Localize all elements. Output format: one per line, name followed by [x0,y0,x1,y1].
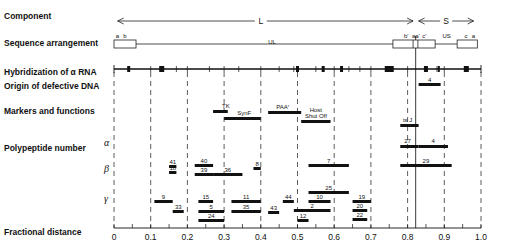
axis-tick-0.9: 0.9 [438,232,450,242]
greek-alpha: α [104,137,110,148]
axis-tick-0.7: 0.7 [365,232,377,242]
seq-c: c [464,33,467,39]
fractional-distance-axis [114,224,481,228]
polypeptide-gamma-22 [353,218,368,221]
marker-tsj [400,124,418,127]
marker-synf [224,117,261,120]
greek-beta: β [103,163,109,174]
polypeptide-gamma-35-label: 35 [243,204,250,210]
polypeptide-beta-18-label: 18 [169,165,176,171]
seq-a-prime: aa' [412,33,420,39]
axis-tick-1.0: 1.0 [475,232,487,242]
sequence-row [114,40,477,48]
polypeptide-gamma-43-label: 43 [270,205,277,211]
polypeptide-gamma-9-label: 9 [162,194,166,200]
polypeptide-gamma-24-label: 24 [208,213,215,219]
hybridization-row [114,65,481,73]
component-S: S [443,16,449,26]
component-row [118,15,474,25]
row-label-markers: Markers and functions [4,106,95,116]
row-label-origin: Origin of defective DNA [4,81,99,91]
polypeptide-beta-7-label: 7 [327,158,331,164]
polypeptide-alpha-4 [419,145,448,148]
marker-shutoff-label: Shut Off [305,113,327,119]
seq-UL: UL [268,39,276,45]
row-label-component: Component [4,11,51,21]
marker-paar [268,111,301,114]
polypeptide-gamma-20-label: 20 [357,203,364,209]
seq-b: b [123,33,127,39]
genome-map-diagram: ComponentSequence arrangementHybridizati… [0,0,510,252]
marker-synf-label: SynF [237,110,251,116]
greek-gamma: γ [104,193,109,204]
repeat-box-inverted [393,40,435,48]
polypeptide-beta-7 [309,164,349,167]
polypeptide-alpha-27-label: 27 [404,138,411,144]
polypeptide-gamma-33 [173,210,184,213]
axis-tick-0.8: 0.8 [402,232,414,242]
marker-tsj-label: ts J [403,117,412,123]
marker-host-shutoff [301,120,330,123]
polypeptide-gamma-2-label: 2 [311,203,315,209]
polypeptide-gamma-15-label: 15 [202,194,209,200]
row-label-sequence: Sequence arrangement [4,38,98,48]
polypeptide-gamma-12 [298,219,309,222]
origin-bar [419,83,441,86]
marker-tk-label: TK [222,103,230,109]
seq-c-prime: c' [422,33,426,39]
polypeptide-gamma-19-label: 19 [358,194,365,200]
component-L: L [258,16,263,26]
polypeptide-alpha-27 [400,145,418,148]
axis-tick-0: 0 [112,232,117,242]
marker-tk [213,110,228,113]
axis-tick-0.6: 0.6 [328,232,340,242]
polypeptide-gamma-11-label: 11 [243,194,250,200]
polypeptide-beta-39 [195,173,213,176]
polypeptide-gamma-22-label: 22 [357,212,364,218]
polypeptide-beta-29-label: 29 [423,158,430,164]
seq-b-prime: b' [404,33,408,39]
repeat-box-ab [114,40,136,48]
polypeptide-gamma-10-label: 10 [316,194,323,200]
polypeptide-beta-36-label: 36 [224,167,231,173]
polypeptide-gamma-44-label: 44 [285,194,292,200]
row-label-fractional-distance: Fractional distance [4,227,82,237]
polypeptide-gamma-5-label: 5 [210,204,214,210]
seq-a-end: a [472,33,476,39]
polypeptide-beta-8-label: 8 [255,161,259,167]
polypeptide-gamma-44 [283,200,294,203]
polypeptide-gamma-43 [268,211,279,214]
polypeptide-beta-39-label: 39 [201,167,208,173]
row-label-polypeptide: Polypeptide number [4,143,86,153]
seq-a: a [116,33,120,39]
axis-tick-0.3: 0.3 [218,232,230,242]
polypeptide-gamma-25 [309,191,349,194]
marker-paar-label: PAAʳ [276,104,290,110]
polypeptide-gamma-9 [154,200,172,203]
polypeptide-alpha-4-label: 4 [432,138,436,144]
polypeptide-gamma-12-label: 12 [300,213,307,219]
axis-tick-0.5: 0.5 [292,232,304,242]
polypeptide-beta-29 [400,164,451,167]
polypeptide-gamma-24 [198,219,224,222]
polypeptide-beta-40-label: 40 [201,158,208,164]
axis-tick-0.2: 0.2 [181,232,193,242]
polypeptide-beta-36 [213,173,242,176]
polypeptide-beta-18 [169,171,176,174]
polypeptide-beta-8 [253,167,260,170]
repeat-box-ca [457,40,477,48]
origin-bar-label: 4 [428,77,432,83]
seq-US: US [442,33,450,39]
polypeptide-gamma-25-label: 25 [325,185,332,191]
row-label-hybridization: Hybridization of α RNA [4,67,97,77]
polypeptide-gamma-33-label: 33 [175,204,182,210]
polypeptide-gamma-35 [231,210,260,213]
axis-tick-0.1: 0.1 [145,232,157,242]
axis-tick-0.4: 0.4 [255,232,267,242]
